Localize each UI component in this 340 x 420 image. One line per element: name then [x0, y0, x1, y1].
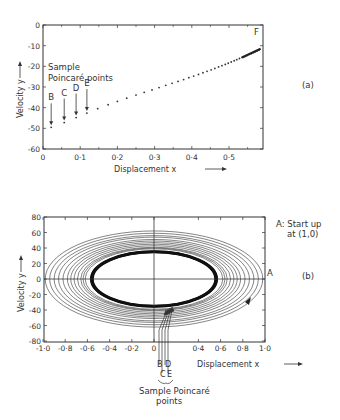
chart-b-ticks: -1·0-0·8-0·6-0·4-0·200·40·60·81·08060402… [29, 213, 271, 353]
poincare-point [206, 70, 208, 72]
x-tick-label: 0 [41, 153, 46, 162]
poincare-point [86, 112, 88, 114]
chart-a-points [50, 49, 260, 128]
y-tick-label: -80 [29, 337, 41, 346]
chart-a-end-label: F [254, 27, 259, 37]
chart-b-xlabel: Displacement x [197, 360, 260, 369]
poincare-point [117, 101, 119, 103]
y-tick-label: 60 [31, 229, 41, 238]
marker-label-D: D [73, 83, 80, 93]
poincare-point [224, 64, 226, 66]
chart-b-start-label: A [267, 268, 273, 278]
marker-label-C: C [61, 88, 67, 98]
y-tick-label: -50 [28, 124, 40, 133]
chart-b-label-E: E [167, 370, 172, 379]
converged-tail [242, 49, 261, 58]
chart-b-start-annotation-line2: at (1,0) [287, 229, 318, 239]
poincare-point [165, 84, 167, 86]
x-tick-label: 0 [152, 344, 157, 353]
chart-a: 00·10·20·30·40·50-10-20-30-40-50-60 BCDE… [16, 21, 314, 174]
poincare-point [188, 77, 190, 79]
chart-b-label-D: D [165, 360, 171, 369]
x-tick-label: 0·1 [74, 153, 86, 162]
chart-a-annotation-line2: Poincaré points [48, 73, 114, 83]
y-tick-label: -10 [28, 42, 40, 51]
y-tick-label: 0 [35, 21, 40, 30]
chart-b-ylabel-arrow [19, 255, 23, 272]
poincare-point [50, 126, 52, 128]
poincare-point [230, 61, 232, 63]
x-tick-label: 0·2 [111, 153, 123, 162]
x-tick-label: -0·4 [102, 344, 117, 353]
poincare-point [202, 72, 204, 74]
poincare-point [63, 122, 65, 124]
x-tick-label: 0·3 [149, 153, 161, 162]
poincare-point [158, 87, 160, 89]
poincare-point [143, 91, 145, 93]
poincare-point [221, 65, 223, 67]
y-tick-label: -20 [29, 291, 41, 300]
x-tick-label: 0·4 [186, 153, 198, 162]
y-tick-label: -40 [28, 104, 40, 113]
marker-label-B: B [48, 92, 54, 102]
chart-a-ylabel: Velocity y [16, 79, 25, 118]
chart-b-label-C: C [160, 370, 166, 379]
chart-b-start-annotation-line1: A: Start up [276, 219, 321, 229]
chart-b-caption-line2: points [156, 396, 183, 406]
poincare-point [233, 60, 235, 62]
chart-b-brace [158, 380, 173, 384]
chart-a-xlabel: Displacement x [114, 165, 177, 174]
poincare-point [227, 62, 229, 64]
poincare-point [198, 73, 200, 75]
poincare-point [193, 75, 195, 77]
y-tick-label: -30 [28, 83, 40, 92]
poincare-point [97, 108, 99, 110]
chart-b: -1·0-0·8-0·6-0·4-0·200·40·60·81·08060402… [17, 213, 321, 406]
poincare-point [183, 79, 185, 81]
x-tick-label: 0·4 [192, 344, 204, 353]
poincare-point [75, 117, 77, 119]
x-tick-label: -0·2 [124, 344, 139, 353]
poincare-point [177, 81, 179, 83]
x-tick-label: -0·6 [80, 344, 95, 353]
y-tick-label: 80 [31, 213, 41, 222]
x-tick-label: 0·8 [237, 344, 249, 353]
chart-a-annotation-line1: Sample [48, 62, 80, 72]
chart-b-xlabel-arrow [284, 362, 303, 366]
poincare-point [214, 68, 216, 70]
figure-canvas: 00·10·20·30·40·50-10-20-30-40-50-60 BCDE… [0, 0, 340, 420]
chart-a-ylabel-arrow [18, 61, 22, 78]
chart-b-ylabel: Velocity y [17, 273, 26, 312]
x-tick-label: 1·0 [259, 344, 271, 353]
x-tick-label: -0·8 [58, 344, 73, 353]
chart-b-panel-label: (b) [302, 271, 314, 281]
y-tick-label: 0 [36, 275, 41, 284]
y-tick-label: 20 [31, 260, 41, 269]
poincare-point [210, 69, 212, 71]
y-tick-label: -60 [29, 322, 41, 331]
y-tick-label: -40 [29, 306, 41, 315]
chart-a-panel-label: (a) [302, 80, 314, 90]
y-tick-label: 40 [31, 244, 41, 253]
poincare-point [239, 58, 241, 60]
chart-b-label-B: B [157, 360, 163, 369]
chart-a-xlabel-arrow [205, 167, 227, 171]
poincare-point [151, 89, 153, 91]
y-tick-label: -20 [28, 62, 40, 71]
chart-a-marker-arrows: BCDE [48, 78, 89, 125]
chart-b-caption-line1: Sample Poincaré [139, 386, 210, 396]
poincare-point [135, 94, 137, 96]
poincare-point [218, 66, 220, 68]
poincare-point [171, 82, 173, 84]
x-tick-label: 0·5 [223, 153, 235, 162]
y-tick-label: -60 [28, 145, 40, 154]
poincare-point [126, 97, 128, 99]
x-tick-label: 0·6 [215, 344, 227, 353]
poincare-point [236, 59, 238, 61]
poincare-point [107, 104, 109, 106]
